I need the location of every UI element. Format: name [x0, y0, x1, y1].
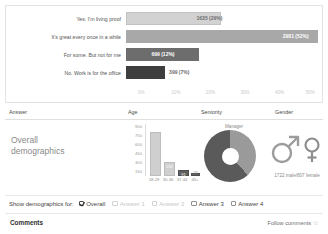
- bar-track: 2981 (52%): [126, 30, 322, 43]
- donut-ring: [204, 130, 256, 182]
- bar-value-label: 1635 (29%): [197, 15, 223, 22]
- follow-comments-label: Follow comments: [267, 219, 311, 227]
- bar-category-label: It's great every once in a while: [6, 34, 126, 40]
- age-y-tick: 750: [135, 133, 142, 138]
- checkbox-icon[interactable]: [79, 201, 85, 207]
- axis-tick: 50%: [306, 90, 315, 96]
- comments-bar: Comments Follow comments ☆: [5, 213, 323, 231]
- age-plot-area: 232 91 24: [145, 124, 200, 176]
- demographics-title-line2: demographics: [11, 146, 91, 157]
- bar-fill: [126, 66, 165, 79]
- filter-option-label: Answer 1: [120, 200, 145, 208]
- filter-option-answer-1[interactable]: Answer 1: [112, 200, 145, 208]
- age-bar: [150, 132, 161, 176]
- column-header-age: Age: [128, 109, 138, 116]
- bar-category-label: No. Work is for the office: [6, 70, 126, 76]
- age-x-tick: 37-44: [177, 177, 188, 183]
- follow-comments-button[interactable]: Follow comments ☆: [267, 219, 318, 227]
- axis-tick: 30%: [240, 90, 249, 96]
- filter-option-answer-3[interactable]: Answer 3: [191, 200, 224, 208]
- age-bar-value: 24: [192, 170, 199, 175]
- filter-option-overall[interactable]: Overall: [79, 200, 106, 208]
- column-header-answer: Answer: [9, 109, 27, 116]
- bar-track: 699 (12%): [126, 48, 322, 61]
- age-y-tick: 300: [135, 160, 142, 165]
- axis-tick: 10%: [171, 90, 180, 96]
- age-y-tick: 600: [135, 142, 142, 147]
- age-bar: 232: [164, 162, 175, 176]
- checkbox-icon[interactable]: [152, 201, 158, 207]
- bar-row: Yes. I'm living proof 1635 (29%): [6, 12, 322, 25]
- age-x-axis: 18-29 30-36 37-44 45+: [145, 177, 201, 184]
- bar-row: No. Work is for the office 399 (7%): [6, 66, 322, 79]
- comments-heading: Comments: [10, 218, 43, 227]
- bar-category-label: Yes. I'm living proof: [6, 16, 126, 22]
- age-y-tick: 450: [135, 151, 142, 156]
- answers-bar-chart-card: Yes. I'm living proof 1635 (29%) It's gr…: [5, 5, 323, 103]
- bar-value-label: 2981 (52%): [283, 33, 309, 40]
- filter-option-label: Answer 4: [238, 200, 263, 208]
- age-bar-value: 232: [165, 164, 174, 169]
- bar-value-label: 399 (7%): [169, 69, 189, 76]
- bar-value-label: 699 (12%): [151, 51, 174, 58]
- gender-icon-group: [267, 131, 325, 167]
- demographics-filter-bar: Show demographics for: Overall Answer 1 …: [5, 196, 323, 211]
- checkbox-icon[interactable]: [191, 201, 197, 207]
- age-y-tick: 150: [135, 169, 142, 174]
- column-header-seniority: Seniority: [201, 109, 222, 116]
- filter-option-label: Answer 3: [199, 200, 224, 208]
- venus-icon: [306, 139, 319, 163]
- gender-symbols-svg: [267, 131, 325, 165]
- gender-caption: 1722 male/807 female: [267, 173, 327, 179]
- age-bar: 91: [178, 170, 189, 176]
- demographics-column-headers: Answer Age Seniority Gender: [5, 106, 323, 120]
- donut-annotation-manager: Manager: [225, 124, 243, 130]
- bar-chart-x-axis: 0% 10% 20% 30% 40% 50%: [126, 90, 318, 98]
- checkbox-icon[interactable]: [112, 201, 118, 207]
- age-y-axis: 900 750 600 450 300 150: [123, 124, 143, 176]
- age-y-tick: 900: [135, 124, 142, 129]
- filter-option-answer-4[interactable]: Answer 4: [231, 200, 264, 208]
- overall-demographics-row: Overall demographics 900 750 600 450 300…: [5, 119, 323, 196]
- axis-tick: 40%: [275, 90, 284, 96]
- age-histogram: 900 750 600 450 300 150 232 91 24: [123, 124, 201, 190]
- filter-bar-label: Show demographics for:: [9, 200, 74, 208]
- mars-icon: [273, 137, 298, 162]
- survey-results-panel: Yes. I'm living proof 1635 (29%) It's gr…: [0, 0, 328, 234]
- filter-option-label: Overall: [86, 200, 105, 208]
- bar-track: 1635 (29%): [126, 12, 322, 25]
- demographics-title-line1: Overall: [11, 135, 91, 146]
- age-x-tick: 30-36: [163, 177, 174, 183]
- demographics-row-title: Overall demographics: [11, 135, 91, 157]
- bar-row: For some. But not for me 699 (12%): [6, 48, 322, 61]
- age-x-tick: 45+: [191, 177, 198, 183]
- bar-row: It's great every once in a while 2981 (5…: [6, 30, 322, 43]
- filter-option-label: Answer 2: [159, 200, 184, 208]
- donut-center-hole: [222, 148, 239, 165]
- axis-tick: 0%: [138, 90, 145, 96]
- age-x-tick: 18-29: [149, 177, 160, 183]
- age-bar: 24: [191, 173, 200, 176]
- bar-category-label: For some. But not for me: [6, 52, 126, 58]
- bar-chart-rows: Yes. I'm living proof 1635 (29%) It's gr…: [6, 12, 322, 84]
- gender-chart: 1722 male/807 female: [267, 129, 327, 189]
- star-icon[interactable]: ☆: [313, 219, 318, 227]
- axis-tick: 20%: [206, 90, 215, 96]
- filter-option-answer-2[interactable]: Answer 2: [152, 200, 185, 208]
- checkbox-icon[interactable]: [231, 201, 237, 207]
- seniority-donut-chart: Manager: [201, 127, 263, 189]
- column-header-gender: Gender: [275, 109, 293, 116]
- bar-track: 399 (7%): [126, 66, 322, 79]
